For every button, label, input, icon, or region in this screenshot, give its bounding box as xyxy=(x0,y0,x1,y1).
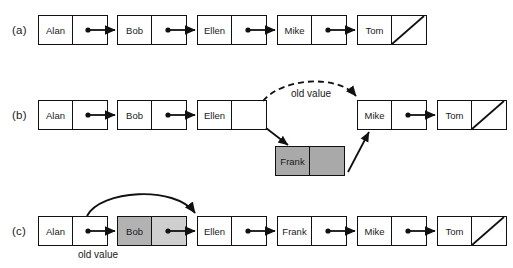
link-arrow-ellen-frank xyxy=(266,128,288,145)
row-c-pointer-links xyxy=(85,194,504,245)
old-value-solid-arrow-c xyxy=(87,194,195,216)
link-arrow-frank-mike xyxy=(348,132,369,172)
linked-list-figure: (a) Alan Bob Ellen Mike Tom (b) Alan Bob… xyxy=(0,0,513,268)
old-value-dashed-arrow-b xyxy=(263,81,356,101)
null-pointer-slash-a xyxy=(392,16,424,44)
row-a-pointer-links xyxy=(85,16,424,44)
diagram-vector-layer xyxy=(0,0,513,268)
row-b-pointer-links xyxy=(85,81,504,172)
null-pointer-slash-c xyxy=(472,217,504,245)
null-pointer-slash-b xyxy=(472,101,504,129)
